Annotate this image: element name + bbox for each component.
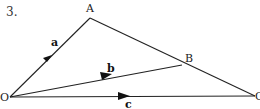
problem-number: 3.	[6, 5, 17, 19]
vector-diagram: 3. A B C O a b c	[0, 0, 260, 109]
vector-c-label: c	[125, 98, 132, 109]
vector-c-line	[10, 96, 255, 97]
point-b-label: B	[185, 52, 193, 65]
point-a-label: A	[85, 2, 95, 15]
point-o-label: O	[0, 91, 9, 104]
vector-a-label: a	[51, 36, 58, 49]
point-c-label: C	[255, 90, 260, 103]
vector-b-label: b	[107, 62, 115, 75]
vector-b-line	[10, 65, 182, 97]
arrowhead-a-icon	[43, 55, 52, 62]
segment-ac-line	[90, 18, 255, 96]
